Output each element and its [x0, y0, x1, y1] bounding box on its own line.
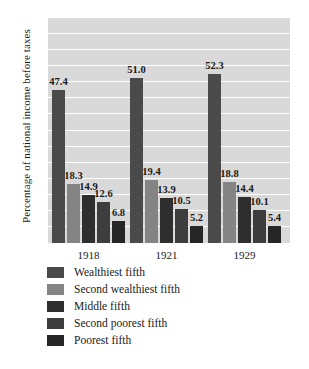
legend-item: Middle fifth [47, 298, 180, 315]
bar-value-label: 10.5 [167, 196, 197, 207]
legend-swatch [47, 301, 64, 312]
bar [190, 226, 203, 243]
bar-value-label: 12.6 [89, 189, 119, 200]
legend-label: Second poorest fifth [74, 318, 167, 330]
bar-series-container: 47.418.314.912.66.851.019.413.910.55.252… [48, 17, 290, 243]
bar [130, 78, 143, 243]
bar [208, 74, 221, 243]
bar-value-label: 47.4 [44, 77, 74, 88]
bar-value-label: 18.3 [59, 171, 89, 182]
legend-item: Second wealthiest fifth [47, 281, 180, 298]
x-tick-label: 1921 [137, 249, 197, 261]
plot-area: 47.418.314.912.66.851.019.413.910.55.252… [48, 17, 290, 243]
x-tick-label: 1929 [215, 249, 275, 261]
bar [112, 221, 125, 243]
legend-swatch [47, 335, 64, 346]
legend-item: Wealthiest fifth [47, 264, 180, 281]
bar-value-label: 6.8 [104, 208, 134, 219]
bar-value-label: 5.2 [182, 213, 212, 224]
legend-label: Second wealthiest fifth [74, 284, 180, 296]
bar [52, 90, 65, 243]
bar [67, 184, 80, 243]
legend: Wealthiest fifthSecond wealthiest fifthM… [47, 264, 180, 349]
legend-item: Poorest fifth [47, 332, 180, 349]
legend-swatch [47, 284, 64, 295]
chart-figure: Percentage of national income before tax… [0, 0, 309, 369]
bar-value-label: 5.4 [260, 213, 290, 224]
bar [268, 226, 281, 243]
bar-value-label: 19.4 [137, 167, 167, 178]
legend-label: Middle fifth [74, 301, 130, 313]
bar [82, 195, 95, 243]
bar-value-label: 14.4 [230, 184, 260, 195]
legend-swatch [47, 318, 64, 329]
bar-value-label: 13.9 [152, 185, 182, 196]
x-tick-label: 1918 [59, 249, 119, 261]
legend-swatch [47, 267, 64, 278]
y-axis-title: Percentage of national income before tax… [20, 6, 32, 246]
legend-label: Wealthiest fifth [74, 267, 145, 279]
legend-item: Second poorest fifth [47, 315, 180, 332]
bar-value-label: 10.1 [245, 197, 275, 208]
legend-label: Poorest fifth [74, 335, 131, 347]
bar-value-label: 18.8 [215, 169, 245, 180]
bar-value-label: 52.3 [200, 61, 230, 72]
bar-value-label: 51.0 [122, 65, 152, 76]
